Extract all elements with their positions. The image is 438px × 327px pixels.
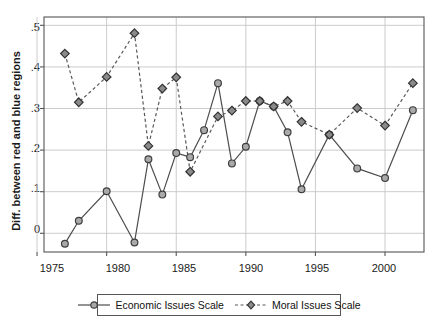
data-point-moral bbox=[214, 112, 223, 121]
plot-frame bbox=[44, 17, 424, 252]
data-point-economic bbox=[187, 154, 194, 161]
data-point-moral bbox=[61, 49, 70, 58]
data-point-moral bbox=[353, 104, 362, 113]
data-point-economic bbox=[354, 165, 361, 172]
data-point-economic bbox=[409, 107, 416, 114]
series-line-moral bbox=[65, 33, 413, 172]
data-point-moral bbox=[144, 142, 153, 151]
data-point-moral bbox=[269, 102, 278, 111]
data-point-moral bbox=[186, 167, 195, 176]
data-point-moral bbox=[228, 106, 237, 115]
data-point-economic bbox=[159, 191, 166, 198]
data-point-economic bbox=[229, 160, 236, 167]
chart-legend: Economic Issues Scale Moral Issues Scale bbox=[97, 294, 341, 316]
data-point-moral bbox=[381, 121, 390, 130]
data-point-economic bbox=[173, 150, 180, 157]
data-point-moral bbox=[255, 97, 264, 106]
data-point-moral bbox=[242, 97, 251, 106]
data-point-economic bbox=[242, 143, 249, 150]
plot-area bbox=[0, 0, 438, 327]
legend-item-economic[interactable]: Economic Issues Scale bbox=[77, 299, 224, 311]
legend-label-economic: Economic Issues Scale bbox=[115, 299, 224, 311]
legend-key-economic-icon bbox=[77, 299, 111, 311]
data-point-economic bbox=[131, 239, 138, 246]
legend-label-moral: Moral Issues Scale bbox=[272, 299, 361, 311]
data-point-economic bbox=[75, 217, 82, 224]
data-point-moral bbox=[297, 118, 306, 127]
chart-figure: Diff. between red and blue regions .5 .4… bbox=[0, 0, 438, 327]
data-point-economic bbox=[298, 186, 305, 193]
data-point-moral bbox=[130, 29, 139, 38]
data-point-economic bbox=[145, 156, 152, 163]
legend-key-moral-icon bbox=[234, 299, 268, 311]
data-point-moral bbox=[283, 97, 292, 106]
data-point-economic bbox=[284, 129, 291, 136]
data-point-economic bbox=[61, 240, 68, 247]
data-point-economic bbox=[382, 175, 389, 182]
data-point-moral bbox=[409, 79, 418, 88]
data-point-economic bbox=[215, 80, 222, 87]
data-point-economic bbox=[201, 127, 208, 134]
legend-item-moral[interactable]: Moral Issues Scale bbox=[234, 299, 361, 311]
data-point-economic bbox=[103, 188, 110, 195]
data-point-moral bbox=[158, 84, 167, 93]
